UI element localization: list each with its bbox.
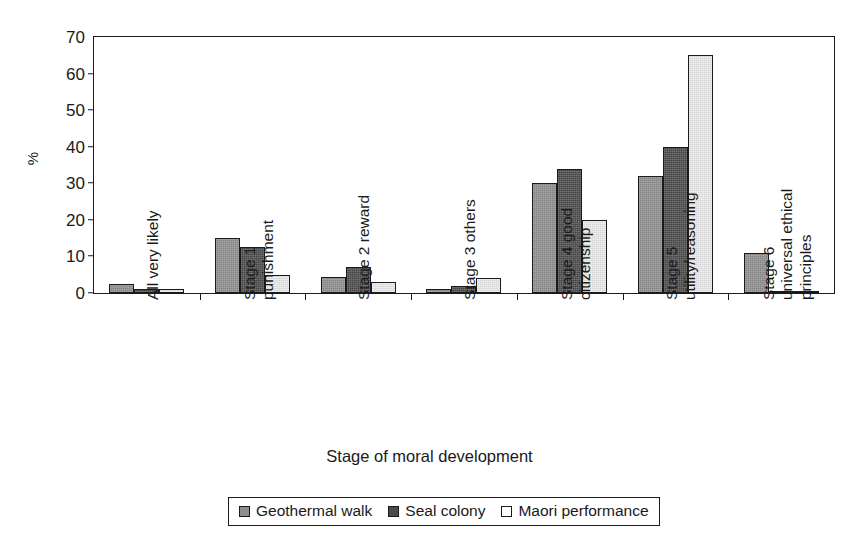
legend-item[interactable]: Maori performance [501,502,648,520]
bar [215,238,240,293]
legend-swatch-icon [239,506,250,517]
legend-item[interactable]: Geothermal walk [239,502,372,520]
bar [109,284,134,293]
legend-swatch-icon [501,506,512,517]
x-tick-mark [623,293,624,300]
bar-chart-figure: % 010203040506070 All very likelyStage 1… [0,0,859,560]
x-tick-mark [517,293,518,300]
legend-item[interactable]: Seal colony [388,502,485,520]
bar [321,277,346,293]
legend-label: Seal colony [405,502,485,520]
x-tick-mark [200,293,201,300]
legend-label: Maori performance [518,502,648,520]
x-tick-mark [305,293,306,300]
x-tick-mark [728,293,729,300]
bar [532,183,557,293]
bar [159,289,184,293]
bar [638,176,663,293]
x-axis-title: Stage of moral development [0,447,859,466]
bar [476,278,501,293]
y-tick-label-70: 70 [66,29,94,46]
legend-swatch-icon [388,506,399,517]
chart-legend: Geothermal walkSeal colonyMaori performa… [228,497,660,526]
bar [426,289,451,293]
x-tick-mark [411,293,412,300]
legend-label: Geothermal walk [256,502,372,520]
y-axis-title: % [24,152,41,166]
bar [371,282,396,293]
